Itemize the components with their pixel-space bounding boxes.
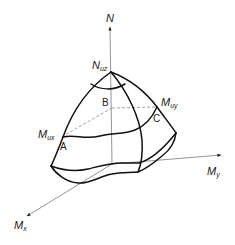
- point-b-label: B: [102, 97, 109, 108]
- axes: [27, 27, 221, 216]
- nuz-label: Nuz: [92, 59, 108, 72]
- interaction-diagram: N My Mx Nuz Mux Muy A B C: [0, 0, 235, 245]
- point-a-label: A: [60, 141, 67, 152]
- axis-labels: N My Mx: [14, 12, 220, 232]
- mx-axis: [27, 164, 112, 216]
- dash-b-to-a: [63, 108, 112, 136]
- bottom-inner-contour: [51, 133, 176, 170]
- n-axis-label: N: [106, 12, 114, 24]
- interaction-surface: [51, 72, 176, 183]
- n-axis: [110, 27, 112, 164]
- mux-label: Mux: [38, 128, 55, 141]
- dashed-guides: [63, 107, 156, 136]
- my-axis-label: My: [207, 165, 220, 179]
- mid-level-curve: [63, 107, 157, 137]
- muy-label: Muy: [161, 96, 178, 110]
- point-c-label: C: [153, 113, 160, 124]
- mx-axis-label: Mx: [14, 219, 27, 232]
